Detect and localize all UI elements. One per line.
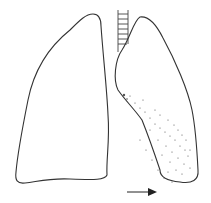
left-lung-outline [16,14,109,183]
lung-drawing [0,0,211,203]
trachea [118,10,128,52]
lung-diagram [0,0,211,203]
stipple-shading [123,94,191,183]
arrow-right-icon [127,188,157,196]
